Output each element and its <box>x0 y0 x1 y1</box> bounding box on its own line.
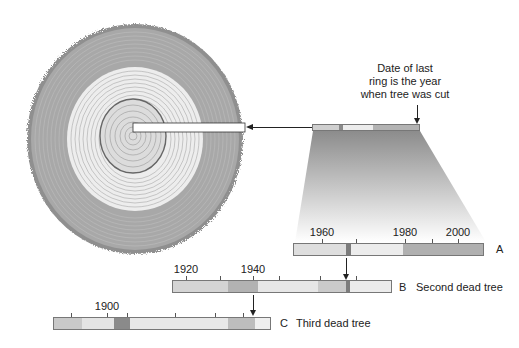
sample-a-letter: A <box>496 243 503 255</box>
callout-line-2: ring is the year <box>340 75 470 88</box>
sample-c-dark-band <box>114 318 130 329</box>
tick-label-1980: 1980 <box>393 226 417 238</box>
callout-line-3: when tree was cut <box>340 88 470 101</box>
sample-c-segment <box>228 318 255 329</box>
sample-b-segment <box>318 281 346 292</box>
callout-line-1: Date of last <box>340 62 470 75</box>
tick-label-1940: 1940 <box>241 263 265 275</box>
match-line-a-b <box>346 258 347 275</box>
sample-b-description: Second dead tree <box>416 281 503 293</box>
sample-c-segment <box>130 318 228 329</box>
core-segment <box>373 125 420 130</box>
callout-arrow-line <box>417 105 418 119</box>
sample-a-segment <box>403 244 484 255</box>
tick-label-1960: 1960 <box>310 226 334 238</box>
sample-c-bar <box>53 317 271 330</box>
callout-text: Date of last ring is the year when tree … <box>340 62 470 101</box>
sample-b-letter: B <box>399 281 406 293</box>
sample-c-description: Third dead tree <box>296 317 371 329</box>
sample-c-segment <box>54 318 82 329</box>
sample-c-segment <box>255 318 271 329</box>
tick-label-1900: 1900 <box>95 300 119 312</box>
sample-a-segment <box>351 244 403 255</box>
core-sample-bar <box>312 124 420 131</box>
sample-c-segment <box>82 318 114 329</box>
sample-b-bar <box>172 280 392 293</box>
tick-label-2000: 2000 <box>446 226 470 238</box>
tree-rings-illustration <box>20 17 250 262</box>
tick-label-1920: 1920 <box>174 263 198 275</box>
core-to-tree-arrow-line <box>253 127 312 128</box>
core-segment <box>343 125 373 130</box>
sample-b-segment <box>173 281 228 292</box>
tree-cross-section <box>20 17 250 262</box>
sample-a-bar <box>293 243 484 256</box>
arrow-down-icon <box>250 310 256 316</box>
arrow-left-icon <box>246 124 253 130</box>
core-segment <box>313 125 339 130</box>
sample-b-segment <box>350 281 392 292</box>
sample-c-letter: C <box>280 317 288 329</box>
sample-b-segment <box>228 281 258 292</box>
sample-a-segment <box>294 244 346 255</box>
